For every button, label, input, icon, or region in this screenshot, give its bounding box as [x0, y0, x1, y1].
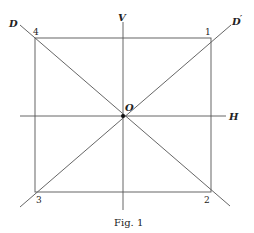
label-h: H [228, 111, 239, 122]
diagram-canvas: V H D D ′ O 1 2 3 4 Fig. 1 [0, 0, 254, 233]
diagonal-d [20, 25, 230, 206]
label-d-prime-mark: ′ [240, 12, 243, 22]
origin-point [121, 114, 125, 118]
corner-label-1: 1 [205, 27, 211, 37]
label-d: D [8, 18, 18, 29]
corner-label-2: 2 [204, 195, 210, 205]
corner-label-4: 4 [33, 27, 39, 37]
figure-caption: Fig. 1 [114, 217, 143, 228]
label-v: V [118, 12, 127, 23]
label-origin: O [125, 102, 134, 113]
corner-label-3: 3 [36, 195, 42, 205]
